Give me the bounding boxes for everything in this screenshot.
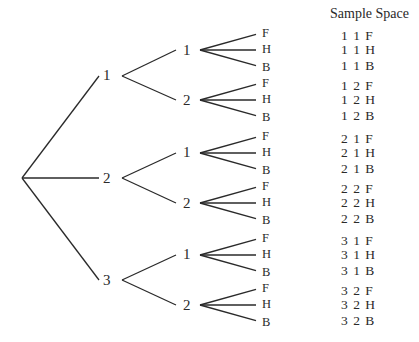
leaf-2-2-h: H: [262, 195, 271, 209]
sample-space-outcome: 3 2 B: [341, 314, 375, 328]
sample-space-outcome: 2 2 B: [341, 212, 375, 226]
leaf-1-1-f: F: [262, 26, 269, 40]
leaf-2-2-f: F: [262, 179, 269, 193]
leaf-1-2-b: B: [262, 110, 270, 124]
leaf-1-2-f: F: [262, 76, 269, 90]
leaf-2-1-f: F: [262, 129, 269, 143]
level2-node-2-2: 2: [183, 196, 191, 210]
level2-node-1-2: 2: [183, 93, 191, 107]
sample-space-outcome: 1 2 H: [341, 93, 376, 107]
level2-node-3-2: 2: [183, 298, 191, 312]
leaf-2-1-h: H: [262, 145, 271, 159]
level2-node-3-1: 1: [183, 247, 191, 261]
leaf-3-1-b: B: [262, 265, 270, 279]
sample-space-outcome: 2 1 B: [341, 162, 375, 176]
sample-space-outcome: 1 1 H: [341, 43, 376, 57]
leaf-3-2-h: H: [262, 297, 271, 311]
level1-node-3: 3: [103, 273, 111, 287]
leaf-2-2-b: B: [262, 213, 270, 227]
sample-space-outcome: 1 2 B: [341, 109, 375, 123]
leaf-1-2-h: H: [262, 92, 271, 106]
sample-space-outcome: 3 1 B: [341, 264, 375, 278]
sample-space-outcome: 2 1 F: [341, 132, 374, 146]
leaf-3-2-b: B: [262, 315, 270, 329]
leaf-1-1-h: H: [262, 42, 271, 56]
leaf-2-1-b: B: [262, 163, 270, 177]
sample-space-outcome: 1 1 B: [341, 59, 375, 73]
sample-space-outcome: 1 2 F: [341, 79, 374, 93]
sample-space-header: Sample Space: [330, 6, 409, 22]
leaf-3-1-h: H: [262, 247, 271, 261]
level2-node-1-1: 1: [183, 43, 191, 57]
leaf-3-2-f: F: [262, 281, 269, 295]
leaf-3-1-f: F: [262, 231, 269, 245]
sample-space-outcome: 1 1 F: [341, 29, 374, 43]
sample-space-outcome: 3 2 H: [341, 298, 376, 312]
sample-space-outcome: 3 2 F: [341, 284, 374, 298]
sample-space-outcome: 2 2 F: [341, 182, 374, 196]
level1-node-1: 1: [103, 68, 111, 82]
level2-node-2-1: 1: [183, 145, 191, 159]
sample-space-outcome: 2 2 H: [341, 196, 376, 210]
sample-space-outcome: 2 1 H: [341, 146, 376, 160]
sample-space-outcome: 3 1 H: [341, 248, 376, 262]
sample-space-outcome: 3 1 F: [341, 234, 374, 248]
leaf-1-1-b: B: [262, 60, 270, 74]
level1-node-2: 2: [103, 171, 111, 185]
